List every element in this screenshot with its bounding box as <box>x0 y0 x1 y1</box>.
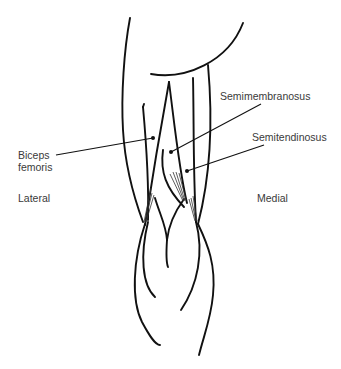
medial-line-2 <box>198 65 210 224</box>
biceps-femoris-label-line2: femoris <box>18 161 52 173</box>
biceps-leader <box>56 138 153 155</box>
lateral-label: Lateral <box>18 192 50 204</box>
medial-calf-inner <box>181 222 200 310</box>
biceps-dot <box>151 136 155 140</box>
semitendinosus-dot <box>185 169 189 173</box>
semimembranosus-dot <box>169 150 173 154</box>
lateral-thigh-contour <box>122 18 143 222</box>
biceps-femoris-label-line1: Biceps <box>18 149 50 161</box>
semitendinosus-leader <box>187 145 264 171</box>
popliteal-line-left <box>155 198 168 267</box>
medial-label: Medial <box>257 192 288 204</box>
gluteal-fold-arc <box>151 23 243 75</box>
anatomy-diagram: Semimembranosus Semitendinosus Biceps fe… <box>0 0 341 369</box>
semitendinosus-label: Semitendinosus <box>252 131 327 143</box>
lateral-calf-inner <box>143 222 155 297</box>
biceps-femoris-line <box>143 107 148 220</box>
knee-line-drawing <box>0 0 341 369</box>
semimembranosus-label: Semimembranosus <box>220 90 310 102</box>
semimembranosus-leader <box>171 104 261 152</box>
